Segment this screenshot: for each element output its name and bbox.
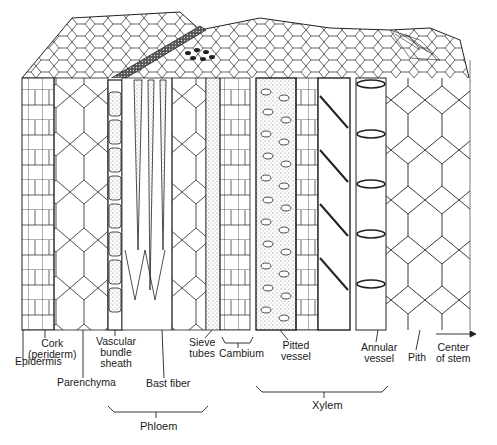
label-annular-line2: vessel [361, 353, 397, 364]
label-cork-line2: (periderm) [28, 349, 76, 360]
label-parenchyma: Parenchyma [57, 377, 116, 388]
label-pith: Pith [408, 352, 426, 363]
label-pitted-vessel: Pitted vessel [281, 340, 311, 362]
label-center-line2: of stem [436, 353, 470, 364]
label-xylem-group: Xylem [312, 400, 343, 411]
cross-section-top [22, 12, 470, 84]
label-annular-vessel: Annular vessel [361, 342, 397, 364]
label-cambium: Cambium [219, 348, 264, 359]
leader-lines [23, 330, 476, 418]
longitudinal-section [22, 60, 470, 330]
label-cork: Cork (periderm) [28, 338, 76, 360]
stem-diagram: Epidermis Cork (periderm) Parenchyma Vas… [0, 0, 497, 445]
label-center-of-stem: Center of stem [436, 342, 470, 364]
label-bast-fiber: Bast fiber [146, 378, 190, 389]
label-sieve-tubes: Sieve tubes [189, 337, 215, 359]
label-phloem-group: Phloem [140, 421, 177, 432]
label-pitted-line2: vessel [281, 351, 311, 362]
label-vascular-bundle-sheath: Vascular bundle sheath [96, 336, 136, 369]
label-vascular-line3: sheath [96, 358, 136, 369]
label-sieve-line2: tubes [189, 348, 215, 359]
